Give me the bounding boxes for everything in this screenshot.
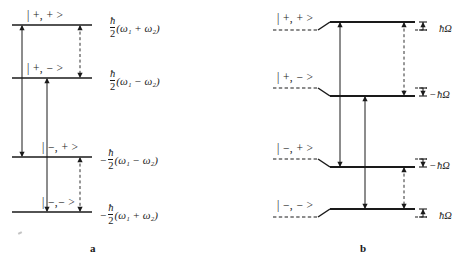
shift-marker-b-plus-plus: ħΩ [438, 24, 452, 35]
level-label-b-minus-plus: | −, + > [277, 143, 313, 155]
shift-value: ħΩ [437, 160, 450, 171]
level-label-a-minus-minus: | −,− > [42, 197, 75, 209]
energy-fraction: ħ2 [110, 16, 115, 39]
energy-sign: − [100, 154, 106, 166]
level-ramp-b-plus-plus [318, 22, 330, 30]
energy-label-a-minus-plus: −ħ2(ω₁ − ω₂) [100, 148, 158, 171]
energy-numerator: ħ [108, 203, 113, 214]
energy-expression: (ω₁ − ω₂) [114, 154, 157, 166]
energy-numerator: ħ [110, 69, 115, 80]
level-label-b-plus-plus: | +, + > [277, 13, 313, 25]
level-ramp-b-plus-minus [318, 88, 330, 96]
shift-tick-head-b-plus-minus [420, 91, 425, 96]
energy-expression: (ω₁ + ω₂) [116, 22, 159, 34]
shift-marker-b-minus-minus: ħΩ [438, 211, 452, 222]
energy-expression: (ω₁ + ω₂) [114, 209, 157, 221]
figure-lines-svg [0, 0, 465, 262]
energy-denominator: 2 [110, 82, 115, 93]
level-label-a-plus-plus: | +, + > [27, 10, 63, 22]
energy-denominator: 2 [110, 29, 115, 40]
shift-value: ħΩ [439, 210, 452, 221]
level-ramp-b-minus-plus [318, 159, 330, 167]
energy-sign: − [100, 209, 106, 221]
energy-level-figure: | +, + > | +, − > | −, + > | −,− > ħ2(ω₁… [0, 0, 465, 262]
energy-fraction: ħ2 [110, 69, 115, 92]
shift-sign: − [430, 160, 436, 171]
energy-label-a-plus-plus: ħ2(ω₁ + ω₂) [108, 16, 160, 39]
level-label-b-plus-minus: | +, − > [277, 72, 313, 84]
shift-sign: − [430, 89, 436, 100]
energy-label-a-plus-minus: ħ2(ω₁ − ω₂) [108, 69, 160, 92]
level-ramp-b-minus-minus [318, 209, 330, 217]
energy-denominator: 2 [108, 161, 113, 172]
panel-caption-a: a [90, 243, 96, 254]
shift-value: ħΩ [437, 89, 450, 100]
level-label-a-minus-plus: | −, + > [42, 142, 78, 154]
energy-label-a-minus-minus: −ħ2(ω₁ + ω₂) [100, 203, 158, 226]
energy-expression: (ω₁ − ω₂) [116, 75, 159, 87]
energy-fraction: ħ2 [108, 148, 113, 171]
shift-marker-b-plus-minus: −ħΩ [430, 90, 450, 101]
shift-tick-head-b-plus-plus [420, 22, 425, 27]
shift-tick-head-b-minus-minus [420, 209, 425, 214]
level-label-a-plus-minus: | +, − > [27, 63, 63, 75]
shift-tick-head-b-minus-plus [420, 162, 425, 167]
panel-caption-b: b [360, 243, 366, 254]
energy-denominator: 2 [108, 216, 113, 227]
energy-numerator: ħ [110, 16, 115, 27]
energy-numerator: ħ [108, 148, 113, 159]
shift-marker-b-minus-plus: −ħΩ [430, 161, 450, 172]
energy-fraction: ħ2 [108, 203, 113, 226]
shift-value: ħΩ [439, 23, 452, 34]
level-label-b-minus-minus: | −, − > [277, 200, 313, 212]
